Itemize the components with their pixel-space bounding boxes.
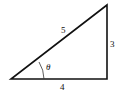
right-triangle [11, 5, 107, 79]
opposite-label: 3 [110, 39, 115, 49]
adjacent-label: 4 [60, 82, 65, 92]
angle-arc [39, 62, 44, 79]
triangle-diagram: 5 3 4 θ [0, 0, 121, 94]
hypotenuse-label: 5 [61, 25, 66, 35]
angle-label: θ [46, 62, 51, 72]
